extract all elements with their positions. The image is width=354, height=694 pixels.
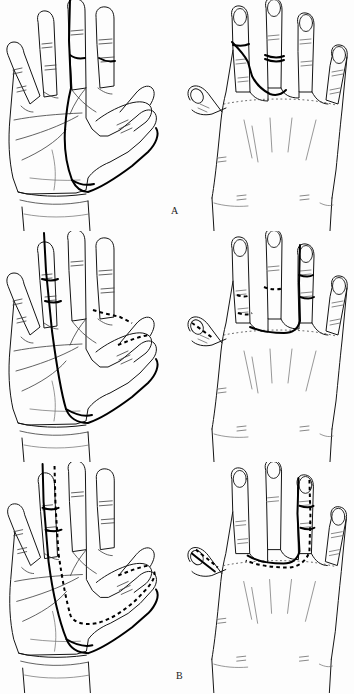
nerve-boundary-solid [43,464,158,653]
nerve-boundary-solid [248,478,300,564]
panel-b: B [0,231,354,462]
nerve-boundary-solid [65,0,158,192]
panel-c: C [0,462,354,693]
dorsal-hand-b [188,231,347,462]
panel-label-a: A [171,205,179,216]
dorsal-hand-a [188,0,347,231]
palmar-hand-a [7,0,158,231]
panel-a: A [0,0,354,231]
palmar-hand-b [7,231,158,462]
dorsal-hand-c [188,462,347,693]
nerve-boundary-solid [232,42,286,95]
nerve-boundary-dashed [237,295,250,297]
palmar-hand-c [8,462,158,693]
figure-container: A [0,0,354,694]
nerve-boundary-dashed [93,310,132,323]
nerve-boundary-solid [44,233,158,423]
nerve-boundary-solid [250,245,300,333]
